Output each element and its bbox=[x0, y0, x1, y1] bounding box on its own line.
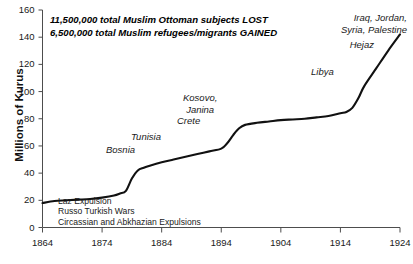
headline-line-2: 6,500,000 total Muslim refugees/migrants… bbox=[50, 27, 277, 40]
y-tick-label: 140 bbox=[0, 32, 35, 42]
annotation-kosovo: Kosovo, bbox=[183, 92, 217, 104]
annotation-mandates-line-2: Syria, Palestine bbox=[284, 24, 407, 36]
annotation-mandates-line-1: Iraq, Jordan, bbox=[284, 12, 407, 24]
y-tick-label: 60 bbox=[0, 141, 35, 151]
debt-line-series bbox=[43, 34, 401, 203]
y-tick-label: 0 bbox=[0, 223, 35, 233]
x-tick-label: 1874 bbox=[77, 238, 127, 248]
x-tick-label: 1924 bbox=[375, 238, 413, 248]
x-tick-label: 1904 bbox=[256, 238, 306, 248]
headline-line-1: 11,500,000 total Muslim Ottoman subjects… bbox=[50, 14, 277, 27]
event-note-2: Russo Turkish Wars bbox=[58, 206, 201, 216]
y-tick-label: 100 bbox=[0, 87, 35, 97]
x-tick-label: 1884 bbox=[137, 238, 187, 248]
annotation-libya: Libya bbox=[311, 66, 334, 78]
x-tick-label: 1894 bbox=[196, 238, 246, 248]
y-tick-label: 20 bbox=[0, 195, 35, 205]
y-tick-label: 160 bbox=[0, 5, 35, 15]
event-note-3: Circassian and Abkhazian Expulsions bbox=[58, 217, 201, 227]
annotation-hejaz: Hejaz bbox=[284, 39, 374, 51]
y-tick-marks bbox=[39, 10, 43, 228]
event-note-1: Laz Expulsion bbox=[58, 196, 201, 206]
headline-annotation: 11,500,000 total Muslim Ottoman subjects… bbox=[50, 14, 277, 39]
annotation-tunisia: Tunisia bbox=[131, 131, 161, 143]
y-tick-label: 120 bbox=[0, 59, 35, 69]
y-tick-label: 40 bbox=[0, 168, 35, 178]
x-tick-marks bbox=[43, 228, 401, 233]
annotation-janina: Janina bbox=[183, 104, 217, 116]
annotation-crete: Crete bbox=[177, 115, 217, 127]
annotation-bosnia: Bosnia bbox=[106, 144, 135, 156]
x-tick-label: 1914 bbox=[315, 238, 365, 248]
chart-container: Millions of Kurus 020406080100120140160 … bbox=[0, 0, 413, 264]
x-tick-label: 1864 bbox=[18, 238, 68, 248]
annotation-kosovo-group: Kosovo, Janina Crete bbox=[183, 92, 217, 127]
annotation-mandates: Iraq, Jordan, Syria, Palestine bbox=[284, 12, 407, 35]
y-tick-label: 80 bbox=[0, 114, 35, 124]
event-notes-annotation: Laz Expulsion Russo Turkish Wars Circass… bbox=[58, 196, 201, 227]
